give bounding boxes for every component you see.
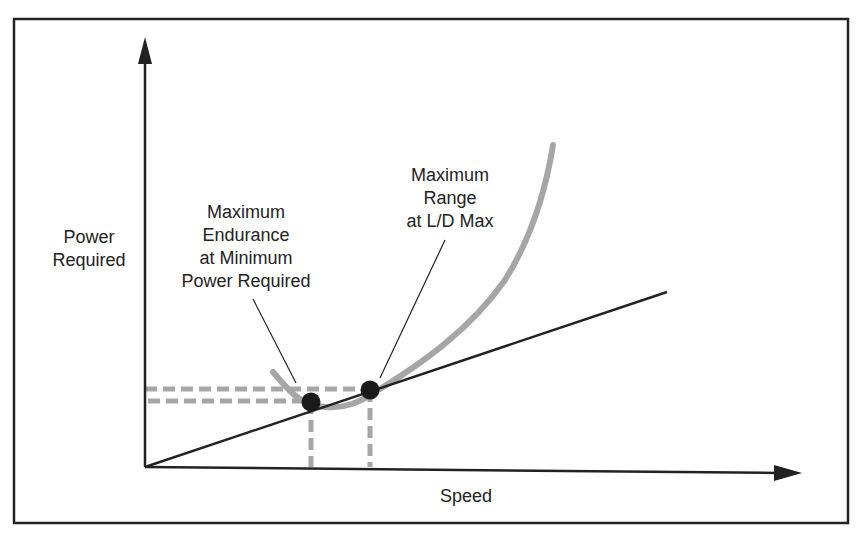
x-axis-label: Speed: [416, 485, 516, 508]
max-endurance-line-1: Maximum: [166, 201, 326, 224]
max-endurance-line-3: at Minimum: [166, 247, 326, 270]
x-axis-arrow-icon: [774, 465, 802, 481]
range-leader-line: [380, 240, 445, 378]
y-axis-label-line-2: Required: [44, 249, 134, 272]
max-endurance-annotation: Maximum Endurance at Minimum Power Requi…: [166, 201, 326, 293]
y-axis-arrow-icon: [138, 37, 152, 64]
max-range-line-3: at L/D Max: [390, 210, 510, 233]
max-range-point: [361, 381, 380, 400]
y-axis-label: Power Required: [44, 226, 134, 272]
y-axis-label-line-1: Power: [44, 226, 134, 249]
max-range-line-1: Maximum: [390, 164, 510, 187]
max-range-annotation: Maximum Range at L/D Max: [390, 164, 510, 233]
max-range-line-2: Range: [390, 187, 510, 210]
max-endurance-point: [302, 393, 321, 412]
max-endurance-line-2: Endurance: [166, 224, 326, 247]
x-axis-label-text: Speed: [416, 485, 516, 508]
max-endurance-line-4: Power Required: [166, 270, 326, 293]
x-axis: [145, 467, 778, 473]
tangent-line: [145, 292, 667, 467]
